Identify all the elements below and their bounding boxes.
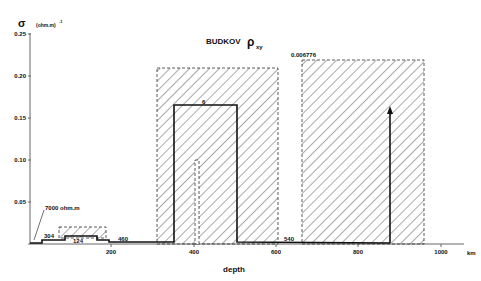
uncertainty-box-narrow [195,160,199,244]
uncertainty-box [157,68,278,244]
x-tick-label: 1000 [434,249,448,255]
y-axis-symbol: σ [18,17,26,29]
layer-label-7000: 7000 ohm.m [45,205,80,211]
x-tick-label: 400 [189,249,200,255]
layer-label-124: 124 [73,238,84,244]
x-tick-label: 600 [271,249,282,255]
halfspace-label: 0.006776 [291,52,317,58]
y-tick-label: 0.25 [14,31,26,37]
layer-label-460: 460 [118,236,129,242]
y-axis-exponent: -1 [59,19,63,24]
y-tick-label: 0.05 [14,199,26,205]
chart-canvas: 0.05 0.10 0.15 0.20 0.25 200 400 600 800… [0,0,481,281]
y-ticks: 0.05 0.10 0.15 0.20 0.25 [14,31,31,205]
x-tick-label: 800 [353,249,364,255]
x-ticks: 200 400 600 800 1000 km [106,244,476,256]
y-tick-label: 0.20 [14,73,26,79]
x-unit: km [467,250,476,256]
y-tick-label: 0.15 [14,115,26,121]
y-tick-label: 0.10 [14,157,26,163]
chart-title: BUDKOV [206,37,241,46]
uncertainty-box [302,60,424,244]
layer-label-304: 304 [44,233,55,239]
leader-line [34,210,44,240]
layer-label-540: 540 [284,236,295,242]
x-axis-label: depth [223,265,245,274]
x-tick-label: 200 [106,249,117,255]
y-axis-units: (ohm.m) [36,22,56,28]
title-subscript: xy [256,44,263,50]
title-symbol: ρ [247,35,254,49]
